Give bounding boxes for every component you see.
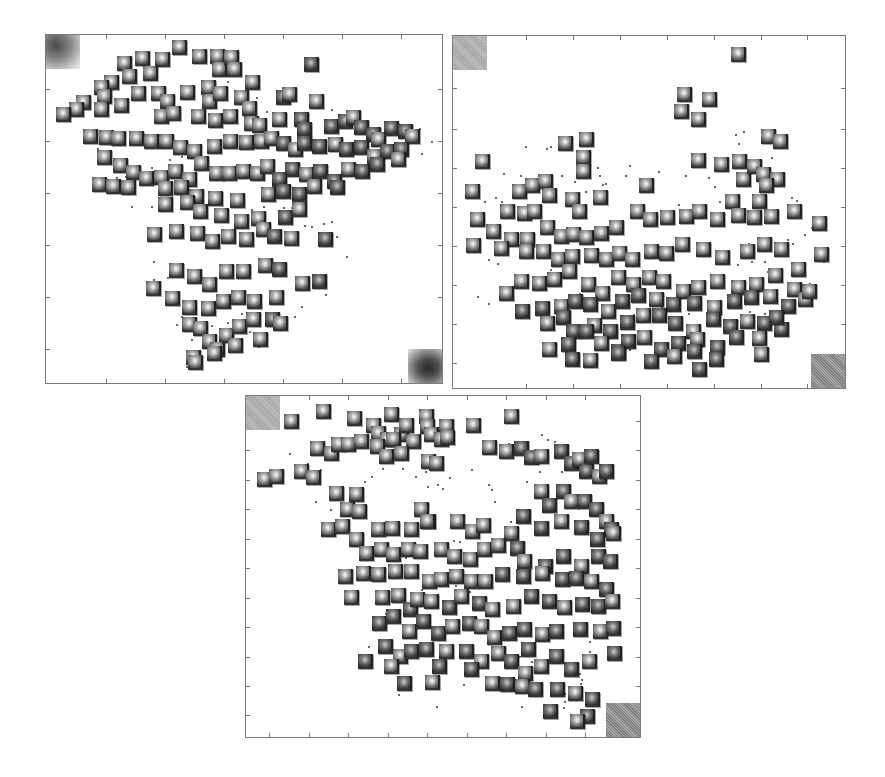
face-thumbnail xyxy=(554,514,569,529)
face-thumbnail xyxy=(214,208,229,223)
face-thumbnail xyxy=(338,569,353,584)
face-thumbnail xyxy=(349,487,364,502)
face-thumbnail xyxy=(182,300,197,315)
face-thumbnail xyxy=(814,247,829,262)
face-thumbnail xyxy=(391,152,406,167)
x-axis-tick xyxy=(620,384,621,388)
face-thumbnail xyxy=(470,212,485,227)
face-thumbnail xyxy=(386,609,401,624)
face-thumbnail xyxy=(517,622,532,637)
data-point xyxy=(402,468,404,470)
face-thumbnail xyxy=(135,51,150,66)
face-thumbnail xyxy=(284,231,299,246)
face-thumbnail xyxy=(267,229,282,244)
face-thumbnail xyxy=(576,164,591,179)
face-thumbnail xyxy=(121,180,136,195)
data-point xyxy=(151,167,153,169)
x-axis-tick xyxy=(348,396,349,400)
face-thumbnail xyxy=(812,216,827,231)
x-axis-tick xyxy=(526,36,527,40)
y-axis-tick xyxy=(453,285,457,286)
y-axis-tick xyxy=(246,539,250,540)
face-thumbnail xyxy=(144,134,159,149)
x-axis-tick xyxy=(714,384,715,388)
face-thumbnail xyxy=(410,592,425,607)
data-point xyxy=(427,486,429,488)
x-axis-tick xyxy=(526,384,527,388)
y-axis-tick xyxy=(636,421,640,422)
face-thumbnail xyxy=(659,246,674,261)
data-point xyxy=(289,453,291,455)
face-thumbnail xyxy=(230,193,245,208)
face-thumbnail xyxy=(534,484,549,499)
face-thumbnail xyxy=(583,353,598,368)
face-thumbnail xyxy=(122,69,137,84)
face-thumbnail xyxy=(500,677,515,692)
face-thumbnail xyxy=(744,290,759,305)
face-thumbnail xyxy=(282,87,297,102)
data-point xyxy=(764,313,766,315)
face-thumbnail xyxy=(231,290,246,305)
face-thumbnail xyxy=(321,522,336,537)
x-axis-tick xyxy=(106,379,107,383)
x-axis-tick xyxy=(573,384,574,388)
face-thumbnail xyxy=(475,154,490,169)
y-axis-tick xyxy=(438,297,442,298)
face-thumbnail xyxy=(355,164,370,179)
data-point xyxy=(311,226,313,228)
face-thumbnail xyxy=(397,676,412,691)
face-thumbnail xyxy=(223,109,238,124)
face-thumbnail xyxy=(696,242,711,257)
face-thumbnail xyxy=(534,449,549,464)
face-thumbnail xyxy=(222,166,237,181)
face-thumbnail xyxy=(391,588,406,603)
face-thumbnail xyxy=(221,229,236,244)
face-thumbnail xyxy=(165,291,180,306)
data-point xyxy=(436,706,438,708)
face-thumbnail xyxy=(269,290,284,305)
face-thumbnail xyxy=(413,544,428,559)
face-thumbnail xyxy=(691,112,706,127)
figure-caption xyxy=(0,772,885,777)
face-thumbnail xyxy=(515,304,530,319)
x-axis-tick xyxy=(427,733,428,737)
x-axis-tick xyxy=(761,384,762,388)
data-point xyxy=(796,200,798,202)
data-point xyxy=(227,81,229,83)
face-thumbnail xyxy=(464,574,479,589)
face-thumbnail xyxy=(534,659,549,674)
face-thumbnail xyxy=(375,590,390,605)
y-axis-tick xyxy=(636,480,640,481)
data-point xyxy=(176,324,178,326)
y-axis-tick xyxy=(636,509,640,510)
face-thumbnail xyxy=(201,301,216,316)
data-point xyxy=(425,471,427,473)
face-thumbnail xyxy=(228,338,243,353)
data-point xyxy=(585,191,587,193)
face-thumbnail xyxy=(643,212,658,227)
mean-face-image xyxy=(453,36,487,70)
data-point xyxy=(421,589,423,591)
face-thumbnail xyxy=(540,316,555,331)
x-axis-tick xyxy=(506,733,507,737)
face-thumbnail xyxy=(666,297,681,312)
data-point xyxy=(708,177,710,179)
face-thumbnail xyxy=(388,564,403,579)
face-thumbnail xyxy=(558,136,573,151)
data-point xyxy=(488,303,490,305)
x-axis-tick xyxy=(620,36,621,40)
face-thumbnail xyxy=(449,569,464,584)
face-thumbnail xyxy=(502,626,517,641)
face-thumbnail xyxy=(637,330,652,345)
face-thumbnail xyxy=(506,599,521,614)
y-axis-tick xyxy=(453,129,457,130)
face-thumbnail xyxy=(419,642,434,657)
face-thumbnail xyxy=(549,649,564,664)
y-axis-tick xyxy=(46,193,50,194)
face-thumbnail xyxy=(514,274,529,289)
face-thumbnail xyxy=(284,414,299,429)
data-point xyxy=(442,488,444,490)
data-point xyxy=(574,181,576,183)
face-thumbnail xyxy=(187,269,202,284)
y-axis-tick xyxy=(636,450,640,451)
